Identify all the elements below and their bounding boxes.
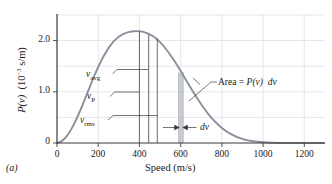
xtick-label-800: 800	[210, 150, 234, 160]
dv-strip-shaded-area	[179, 73, 184, 144]
xtick-label-600: 600	[169, 150, 193, 160]
area-pv-text: P(v)	[247, 77, 263, 87]
ytick-label-1: 1.0	[22, 86, 50, 96]
x-axis-title: Speed (m/s)	[145, 163, 195, 174]
v-avg-label: vavg	[86, 69, 100, 82]
y-axis-title: P(v) (10−3 s/m)	[15, 47, 28, 113]
xtick-label-1000: 1000	[250, 150, 276, 160]
xtick-label-400: 400	[127, 150, 151, 160]
dv-label: dv	[200, 122, 209, 132]
xtick-label-200: 200	[86, 150, 110, 160]
y-axis-units-exponent: −3	[15, 68, 22, 75]
area-dv-text: dv	[268, 77, 277, 87]
v-rms-label: vrms	[80, 115, 95, 128]
panel-identifier: (a)	[6, 162, 18, 173]
ytick-label-0: 0	[22, 137, 50, 147]
area-prefix-text: Area =	[218, 77, 247, 87]
xtick-label-1200: 1200	[291, 150, 317, 160]
area-annotation-label: Area = P(v) dv	[218, 77, 277, 87]
v-p-label: vP	[87, 91, 95, 104]
figure-panel: P(v) (10−3 s/m) 0 1.0 2.0 0 200 400 600 …	[0, 0, 332, 184]
y-axis-units-tail: s/m)	[16, 47, 27, 68]
ytick-label-2: 2.0	[22, 35, 50, 45]
x-axis-ticks	[57, 143, 304, 147]
v-avg-subscript: avg	[90, 74, 100, 82]
v-rms-subscript: rms	[84, 120, 95, 128]
xtick-label-0: 0	[45, 150, 69, 160]
v-p-subscript: P	[91, 96, 95, 104]
y-axis-symbol: P(v)	[16, 95, 27, 113]
